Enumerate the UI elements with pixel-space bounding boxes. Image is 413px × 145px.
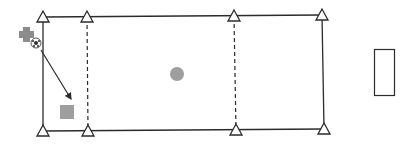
soccer-ball-icon xyxy=(31,38,41,48)
target-square-marker xyxy=(60,105,74,119)
zone-lines xyxy=(87,17,236,131)
goal-rectangle xyxy=(375,50,395,96)
drill-diagram xyxy=(0,0,413,145)
pass-arrow xyxy=(41,50,71,99)
field-right-line xyxy=(322,15,324,129)
dashed-line-right xyxy=(234,17,236,130)
center-circle-marker xyxy=(170,67,184,81)
dashed-line-left xyxy=(87,18,88,131)
